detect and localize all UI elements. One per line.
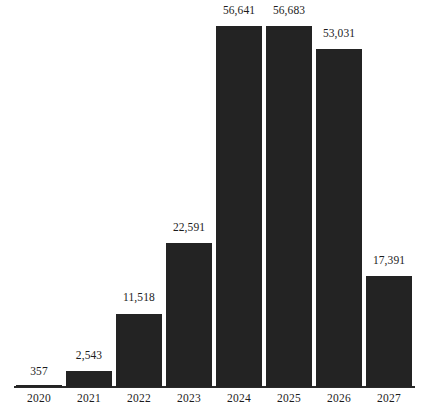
bar[interactable] [16, 385, 62, 387]
bar-slot: 17,391 2027 [364, 0, 414, 416]
bar[interactable] [316, 49, 362, 387]
bar-chart: 357 2020 2,543 2021 11,518 2022 22,591 2… [0, 0, 430, 416]
bar-value-label: 357 [10, 365, 68, 377]
bar-value-label: 11,518 [110, 291, 168, 303]
bar[interactable] [266, 26, 312, 387]
bar-value-label: 17,391 [360, 254, 418, 266]
bar-slot: 56,683 2025 [264, 0, 314, 416]
bar[interactable] [366, 276, 412, 387]
bar-slot: 56,641 2024 [214, 0, 264, 416]
bar-slot: 357 2020 [14, 0, 64, 416]
bar[interactable] [66, 371, 112, 387]
bar[interactable] [166, 243, 212, 387]
bar-value-label: 22,591 [160, 221, 218, 233]
bar-slot: 2,543 2021 [64, 0, 114, 416]
bar-value-label: 56,683 [260, 4, 318, 16]
bar[interactable] [116, 314, 162, 387]
bar[interactable] [216, 26, 262, 387]
plot-area: 357 2020 2,543 2021 11,518 2022 22,591 2… [0, 0, 430, 416]
bar-slot: 11,518 2022 [114, 0, 164, 416]
category-label: 2027 [360, 392, 418, 404]
bar-value-label: 2,543 [60, 349, 118, 361]
bar-value-label: 53,031 [310, 27, 368, 39]
bar-slot: 53,031 2026 [314, 0, 364, 416]
bar-slot: 22,591 2023 [164, 0, 214, 416]
